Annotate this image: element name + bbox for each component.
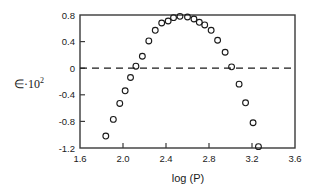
x-axis-ticks <box>123 143 252 148</box>
x-tick-label: 1.6 <box>73 153 86 164</box>
x-tick-label: 2.0 <box>116 153 129 164</box>
data-point <box>152 27 158 33</box>
data-point <box>146 38 152 44</box>
x-tick-label: 3.6 <box>288 153 301 164</box>
x-tick-label: 2.8 <box>202 153 215 164</box>
data-point <box>133 63 139 69</box>
data-point <box>139 53 145 59</box>
chart-figure: 1.62.02.42.83.23.6 0.80.40-0.4-0.8-1.2 l… <box>0 0 318 188</box>
y-axis-title-base: ∈·10 <box>14 77 40 91</box>
y-tick-label: 0.4 <box>62 36 75 47</box>
x-axis-tick-labels: 1.62.02.42.83.23.6 <box>73 153 301 164</box>
data-points <box>103 13 261 149</box>
data-point <box>256 144 262 150</box>
y-tick-label: -0.8 <box>59 116 75 127</box>
y-tick-label: -0.4 <box>59 89 75 100</box>
data-point <box>202 22 208 28</box>
data-point <box>215 37 221 43</box>
data-point <box>159 20 165 26</box>
data-point <box>208 27 214 33</box>
y-tick-label: -1.2 <box>59 143 75 154</box>
data-point <box>222 49 228 55</box>
data-point <box>110 117 116 123</box>
y-tick-label: 0 <box>70 63 75 74</box>
y-axis-title: ∈·102 <box>14 76 44 91</box>
data-point <box>243 100 249 106</box>
x-tick-label: 3.2 <box>245 153 258 164</box>
y-axis-tick-labels: 0.80.40-0.4-0.8-1.2 <box>59 10 75 154</box>
data-point <box>236 81 242 87</box>
data-point <box>229 64 235 70</box>
data-point <box>191 16 197 22</box>
y-axis-title-exponent: 2 <box>40 76 44 85</box>
data-point <box>117 101 123 107</box>
y-axis-ticks <box>80 42 85 122</box>
data-point <box>122 88 128 94</box>
data-point <box>128 75 134 81</box>
data-point <box>250 120 256 126</box>
data-point <box>103 133 109 139</box>
y-tick-label: 0.8 <box>62 10 75 21</box>
x-tick-label: 2.4 <box>159 153 172 164</box>
x-axis-title: log (P) <box>172 172 204 184</box>
plot-frame <box>80 15 295 148</box>
data-point <box>165 18 171 24</box>
scatter-plot: 1.62.02.42.83.23.6 0.80.40-0.4-0.8-1.2 l… <box>0 0 318 188</box>
